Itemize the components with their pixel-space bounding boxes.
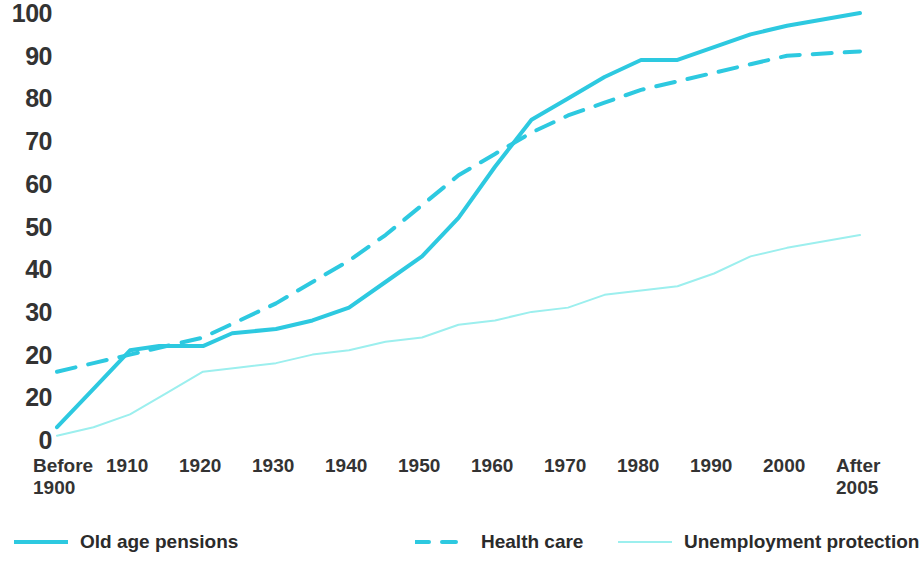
y-axis-tick-label: 70 (0, 129, 52, 154)
y-axis-tick-label: 60 (0, 172, 52, 197)
legend-swatch-icon (14, 535, 68, 549)
x-axis-tick-label: 1970 (544, 455, 586, 477)
series-canvas (52, 0, 882, 450)
x-axis: Before 190019101920193019401950196019701… (0, 450, 882, 508)
legend-label: Unemployment protection (684, 531, 919, 553)
x-axis-tick-label: After 2005 (836, 455, 880, 499)
x-axis-tick-label: 1910 (106, 455, 148, 477)
legend-swatch-icon (618, 535, 672, 549)
y-axis-tick-label: 20 (0, 385, 52, 410)
y-axis-tick-label: 80 (0, 86, 52, 111)
y-axis-tick-label: 20 (0, 343, 52, 368)
x-axis-tick-label: 2000 (763, 455, 805, 477)
x-axis-tick-label: 1990 (690, 455, 732, 477)
legend-swatch-icon (415, 535, 469, 549)
legend-item[interactable]: Health care (415, 525, 583, 559)
x-axis-tick-label: 1980 (617, 455, 659, 477)
legend-label: Health care (481, 531, 583, 553)
x-axis-tick-label: 1930 (252, 455, 294, 477)
plot-area (52, 0, 882, 450)
x-axis-tick-label: 1940 (325, 455, 367, 477)
legend-label: Old age pensions (80, 531, 238, 553)
x-axis-tick-label: 1960 (471, 455, 513, 477)
y-axis-tick-label: 90 (0, 44, 52, 69)
series-line (57, 235, 860, 436)
y-axis-tick-label: 50 (0, 215, 52, 240)
chart-legend: Old age pensionsHealth careUnemployment … (0, 525, 882, 567)
x-axis-tick-label: 1920 (179, 455, 221, 477)
legend-item[interactable]: Unemployment protection (618, 525, 919, 559)
x-axis-tick-label: 1950 (398, 455, 440, 477)
y-axis-tick-label: 30 (0, 300, 52, 325)
x-axis-tick-label: Before 1900 (33, 455, 93, 499)
y-axis-tick-label: 100 (0, 1, 52, 26)
y-axis: 1009080706050403020200 (0, 0, 52, 455)
series-line (57, 13, 860, 427)
series-line (57, 51, 860, 371)
y-axis-tick-label: 40 (0, 257, 52, 282)
legend-item[interactable]: Old age pensions (14, 525, 238, 559)
